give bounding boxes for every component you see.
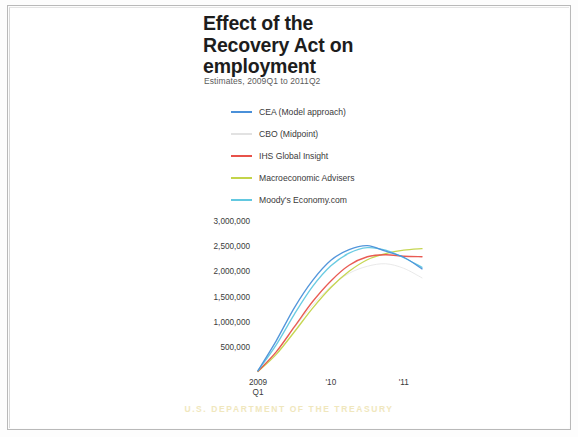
legend-color-swatch-icon [231, 177, 252, 179]
y-axis-tick-label: 3,000,000 [214, 217, 250, 226]
legend-color-swatch-icon [231, 133, 252, 135]
x-axis-tick-label-line-2: Q1 [238, 388, 278, 398]
legend-item-label: CEA (Model approach) [259, 107, 346, 117]
footer-watermark: U.S. DEPARTMENT OF THE TREASURY [0, 404, 578, 414]
x-axis-tick-label: 2009Q1 [238, 378, 278, 398]
y-axis-tick-label: 1,500,000 [214, 292, 250, 301]
legend-color-swatch-icon [231, 199, 252, 201]
legend-item: Moody's Economy.com [231, 189, 451, 211]
legend-color-swatch-icon [231, 155, 252, 157]
legend-item-label: Macroeconomic Advisers [259, 173, 355, 183]
legend-item: IHS Global Insight [231, 145, 451, 167]
chart-legend: CEA (Model approach)CBO (Midpoint)IHS Gl… [231, 101, 451, 211]
y-axis-tick-label: 500,000 [220, 342, 250, 351]
y-axis-tick-label: 2,000,000 [214, 267, 250, 276]
x-axis-tick-label-line-1: '11 [384, 378, 424, 388]
page-title-line-3: employment [203, 56, 433, 78]
legend-item: CEA (Model approach) [231, 101, 451, 123]
chart-series-line [258, 249, 422, 372]
y-axis-tick-label: 1,000,000 [214, 317, 250, 326]
legend-item-label: Moody's Economy.com [259, 195, 347, 205]
chart-series-line [258, 264, 422, 371]
x-axis-tick-label-line-1: 2009 [238, 378, 278, 388]
page-subtitle: Estimates, 2009Q1 to 2011Q2 [204, 76, 320, 86]
chart-series-line [258, 246, 422, 371]
legend-color-swatch-icon [231, 111, 252, 113]
legend-item-label: CBO (Midpoint) [259, 129, 318, 139]
line-chart: 3,000,0002,500,0002,000,0001,500,0001,00… [188, 212, 428, 412]
page-title: Effect of the Recovery Act on employment [203, 13, 433, 78]
slide-canvas: Effect of the Recovery Act on employment… [0, 0, 578, 437]
chart-series-canvas [250, 212, 428, 376]
page-title-line-2: Recovery Act on [203, 35, 433, 57]
x-axis-tick-label: '10 [311, 378, 351, 388]
legend-item: Macroeconomic Advisers [231, 167, 451, 189]
page-title-line-1: Effect of the [203, 13, 433, 35]
legend-item: CBO (Midpoint) [231, 123, 451, 145]
y-axis-tick-label: 2,500,000 [214, 242, 250, 251]
legend-item-label: IHS Global Insight [259, 151, 328, 161]
x-axis-tick-label-line-1: '10 [311, 378, 351, 388]
x-axis-tick-label: '11 [384, 378, 424, 388]
chart-series-line [258, 255, 422, 372]
